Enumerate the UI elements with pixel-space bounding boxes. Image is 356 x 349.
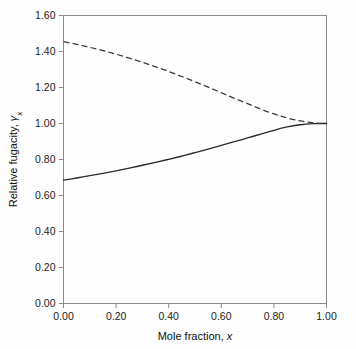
x-axis-title: Mole fraction, x: [158, 330, 233, 342]
x-tick-label: 0.80: [264, 310, 285, 322]
y-tick-label: 1.00: [35, 117, 56, 129]
y-axis-tick-labels: 0.000.200.400.600.801.001.201.401.60: [35, 9, 56, 309]
relative-fugacity-plot: 0.000.200.400.600.801.00 0.000.200.400.6…: [0, 0, 356, 349]
x-tick-label: 0.20: [106, 310, 127, 322]
y-tick-label: 0.20: [35, 261, 56, 273]
y-tick-label: 0.00: [35, 297, 56, 309]
y-tick-label: 1.40: [35, 45, 56, 57]
x-tick-label: 1.00: [316, 310, 337, 322]
y-tick-label: 1.20: [35, 81, 56, 93]
y-axis-title-text: Relative fugacity,: [7, 121, 19, 207]
x-tick-label: 0.00: [53, 310, 74, 322]
chart-figure: 0.000.200.400.600.801.00 0.000.200.400.6…: [0, 0, 356, 349]
y-tick-label: 1.60: [35, 9, 56, 21]
x-axis-title-variable: x: [226, 330, 233, 342]
y-tick-label: 0.80: [35, 153, 56, 165]
y-tick-label: 0.40: [35, 225, 56, 237]
y-tick-label: 0.60: [35, 189, 56, 201]
x-axis-title-text: Mole fraction,: [158, 330, 227, 342]
x-tick-label: 0.60: [211, 310, 232, 322]
x-tick-label: 0.40: [158, 310, 179, 322]
